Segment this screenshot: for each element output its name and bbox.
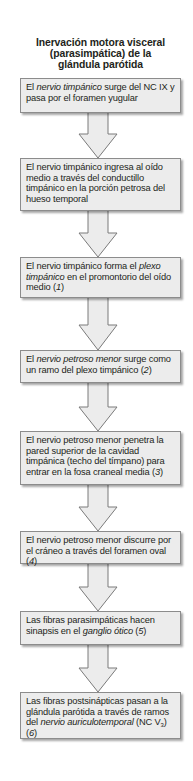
step-box-6: El nervio petroso menor discurre por el … (20, 531, 181, 564)
down-arrow-icon (78, 382, 118, 432)
step-text: ) (143, 626, 146, 636)
step-text: ) (149, 365, 152, 375)
step-box-1: El nervio timpánico surge del NC IX y pa… (20, 78, 181, 113)
step-text: ) (34, 728, 37, 738)
step-term: nervio timpánico (36, 82, 101, 92)
down-arrow-icon (78, 563, 118, 612)
down-arrow-icon (78, 210, 118, 258)
step-box-4: El nervio petroso menor surge como un ra… (20, 350, 181, 383)
step-box-7: Las fibras parasimpáticas hacen sinapsis… (20, 611, 181, 645)
step-text: El nervio petroso menor discurre por el … (26, 535, 171, 566)
step-box-3: El nervio timpánico forma el plexo timpá… (20, 257, 181, 298)
step-text: ) (160, 467, 163, 477)
step-box-5: El nervio petroso menor penetra la pared… (20, 431, 181, 485)
down-arrow-icon (78, 297, 118, 351)
step-text: El nervio petroso menor penetra la pared… (26, 435, 165, 477)
step-text: El nervio timpánico ingresa al oído medi… (26, 162, 165, 204)
step-term: nervio petroso menor (36, 354, 121, 364)
step-term: ganglio ótico (83, 626, 133, 636)
step-box-8: Las fibras postsinápticas pasan a la glá… (20, 692, 181, 739)
down-arrow-icon (78, 112, 118, 159)
title-line-2: (parasimpática) de la (20, 48, 181, 59)
title-line-3: glándula parótida (20, 59, 181, 70)
step-text: ) (61, 282, 64, 292)
step-text: El nervio timpánico forma el (26, 261, 139, 271)
step-box-2: El nervio timpánico ingresa al oído medi… (20, 158, 181, 211)
down-arrow-icon (78, 484, 118, 532)
step-text: El (26, 354, 36, 364)
down-arrow-icon (78, 644, 118, 693)
step-text: (NC V (134, 717, 161, 727)
title-line-1: Inervación motora visceral (20, 37, 181, 48)
diagram-title: Inervación motora visceral (parasimpátic… (20, 37, 181, 71)
step-text: ) (34, 556, 37, 566)
step-text: El (26, 82, 36, 92)
step-term: nervio auriculotemporal (40, 717, 133, 727)
